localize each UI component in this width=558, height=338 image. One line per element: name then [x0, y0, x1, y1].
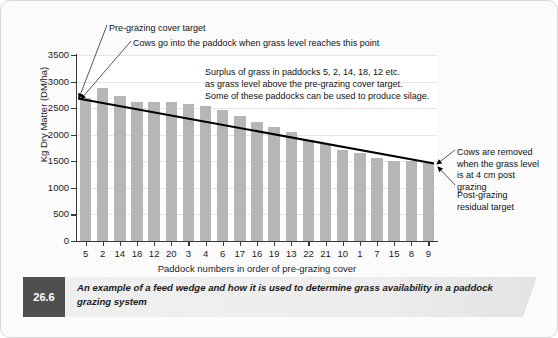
figure-caption-text: An example of a feed wedge and how it is… [77, 281, 507, 309]
annotation-pre-grazing-cover-target: Pre-grazing cover target [109, 23, 206, 35]
leader-cows-removed [437, 150, 455, 164]
annotation-cows-are-removed: Cows are removed when the grass level is… [457, 147, 547, 193]
figure-card: 0500100015002000250030003500 52141812203… [0, 0, 558, 338]
annotation-cows-go-into-paddock: Cows go into the paddock when grass leve… [133, 38, 379, 50]
leader-post-grazing-residual [438, 167, 455, 185]
figure-number-badge: 26.6 [23, 277, 65, 317]
y-axis-tick [71, 108, 77, 109]
leader-pre-grazing-target [79, 25, 107, 98]
caption-fold-corner [523, 277, 537, 317]
feed-wedge-chart: 0500100015002000250030003500 52141812203… [19, 9, 547, 271]
y-axis-tick [71, 214, 77, 215]
annotation-surplus-of-grass: Surplus of grass in paddocks 5, 2, 14, 1… [205, 67, 429, 102]
figure-caption: 26.6 An example of a feed wedge and how … [23, 277, 537, 323]
y-axis-tick [71, 188, 77, 189]
leader-cows-in [81, 41, 131, 99]
annotation-post-grazing-residual-target: Post-grazing residual target [457, 190, 514, 213]
wedge-demand-line [78, 99, 434, 164]
y-axis-tick [71, 135, 77, 136]
y-axis-tick [71, 82, 77, 83]
y-axis-tick [71, 55, 77, 56]
y-axis-tick [71, 241, 77, 242]
y-axis-tick [71, 161, 77, 162]
